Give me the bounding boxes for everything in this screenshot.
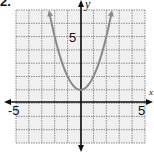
y-tick-label: 5 — [69, 31, 76, 44]
y-axis-up-arrow-icon — [78, 0, 84, 7]
x-axis-name: x — [149, 88, 153, 97]
x-tick-label-min: -5 — [8, 104, 20, 117]
x-axis-right-arrow-icon — [146, 99, 153, 105]
x-tick-label-max: 5 — [138, 104, 145, 117]
coordinate-plane — [0, 0, 154, 152]
y-axis-down-arrow-icon — [78, 145, 84, 152]
y-axis-name: y — [85, 0, 90, 10]
